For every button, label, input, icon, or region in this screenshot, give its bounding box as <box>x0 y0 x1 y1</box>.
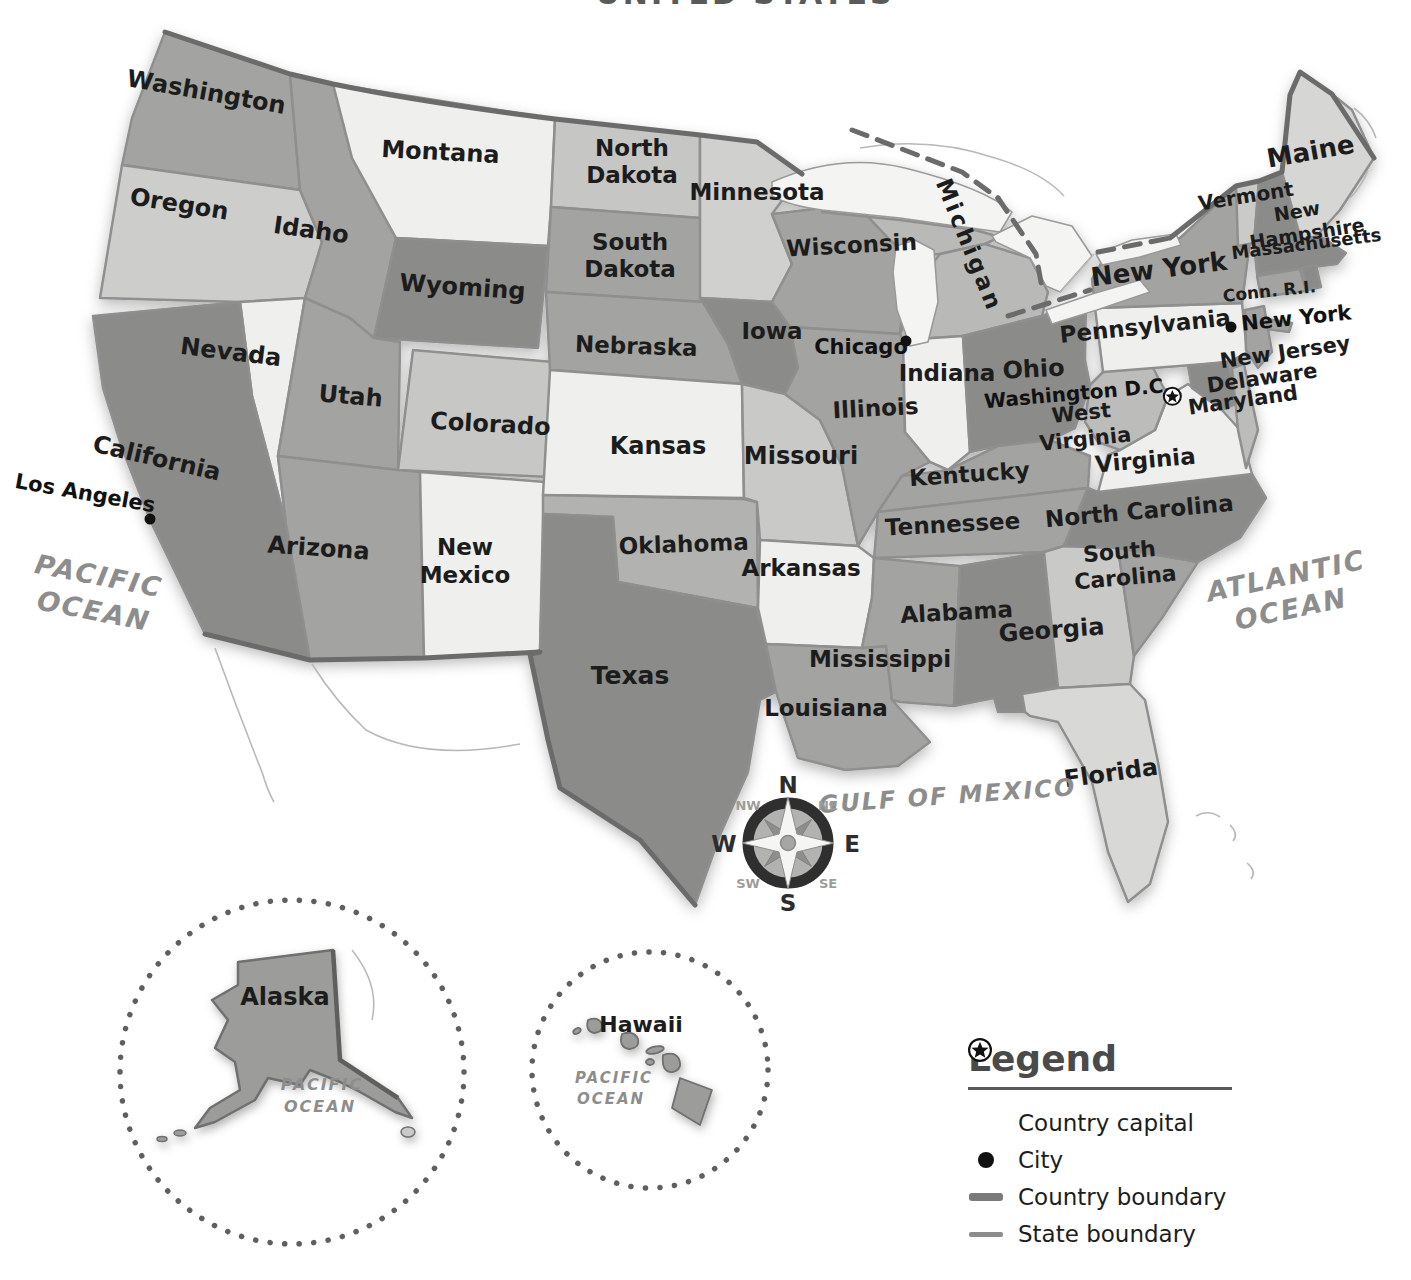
label-minnesota: Minnesota <box>689 179 824 205</box>
label-gulf-of-mexico: GULF OF MEXICO <box>818 773 1077 819</box>
label-south-dakota-1: South <box>592 229 668 255</box>
bahamas-coastline <box>1196 813 1253 879</box>
label-new-york-city: New York <box>1240 300 1353 336</box>
label-new-mexico-2: Mexico <box>420 562 511 588</box>
mexico-coastline-baja <box>215 648 274 802</box>
legend-item-city: City <box>968 1147 1308 1173</box>
label-louisiana: Louisiana <box>764 695 888 721</box>
us-map-page: UNITED STATES <box>0 0 1411 1280</box>
new-york-city-dot <box>1226 322 1237 333</box>
aleutian-island-1 <box>174 1130 186 1136</box>
legend-label: City <box>1018 1147 1063 1173</box>
legend: Legend Country capital City Country boun… <box>968 1038 1308 1247</box>
compass-w: W <box>711 831 736 857</box>
compass-e: E <box>844 831 860 857</box>
hawaii-island-big-island <box>672 1078 712 1125</box>
label-iowa: Iowa <box>741 318 802 344</box>
label-north-dakota-2: Dakota <box>586 162 678 188</box>
label-hawaii-pacific-1: PACIFIC <box>575 1069 653 1087</box>
compass-nw: NW <box>735 798 760 813</box>
label-missouri: Missouri <box>744 442 858 470</box>
label-ohio: Ohio <box>1002 353 1066 384</box>
label-south-dakota-2: Dakota <box>584 256 676 282</box>
label-hawaii: Hawaii <box>599 1012 683 1037</box>
label-arkansas: Arkansas <box>741 555 860 581</box>
country-capital-marker <box>1164 388 1181 405</box>
label-alaska: Alaska <box>240 983 329 1011</box>
label-illinois: Illinois <box>832 393 919 423</box>
hawaii-inset: Hawaii PACIFIC OCEAN <box>532 952 768 1188</box>
legend-title: Legend <box>968 1038 1308 1079</box>
label-new-mexico-1: New <box>437 534 493 560</box>
label-oklahoma: Oklahoma <box>618 529 749 560</box>
compass-ne: NE <box>818 798 838 813</box>
mexico-coastline <box>312 664 520 750</box>
label-chicago: Chicago <box>814 335 908 359</box>
legend-label: Country boundary <box>1018 1184 1226 1210</box>
label-indiana: Indiana <box>899 360 996 386</box>
aleutian-island-2 <box>157 1137 167 1142</box>
label-hawaii-pacific-2: OCEAN <box>577 1090 645 1108</box>
southeast-island <box>401 1127 415 1137</box>
label-texas: Texas <box>591 661 670 690</box>
legend-divider <box>968 1087 1232 1090</box>
legend-item-state-boundary: State boundary <box>968 1221 1308 1247</box>
hawaii-island-lanai <box>646 1059 654 1065</box>
legend-label: State boundary <box>1018 1221 1196 1247</box>
city-dot-icon <box>968 1152 1004 1168</box>
compass-n: N <box>778 772 797 798</box>
label-mississippi: Mississippi <box>809 646 951 672</box>
label-kansas: Kansas <box>610 432 707 460</box>
hawaii-island-niihau <box>572 1027 581 1035</box>
state-boundary-line-icon <box>968 1232 1004 1237</box>
label-north-dakota-1: North <box>595 135 669 161</box>
label-alaska-pacific-2: OCEAN <box>284 1097 356 1116</box>
country-boundary-line-icon <box>968 1193 1004 1201</box>
legend-item-country-boundary: Country boundary <box>968 1184 1308 1210</box>
legend-item-country-capital: Country capital <box>968 1110 1308 1136</box>
legend-label: Country capital <box>1018 1110 1194 1136</box>
compass-s: S <box>780 890 797 916</box>
label-utah: Utah <box>317 379 383 412</box>
alaska-canada-coastline <box>352 950 374 1020</box>
hawaii-island-molokai <box>645 1045 664 1056</box>
hawaii-island-maui <box>663 1054 680 1072</box>
label-nebraska: Nebraska <box>575 331 699 361</box>
compass-sw: SW <box>736 876 760 891</box>
label-alaska-pacific-1: PACIFIC <box>281 1075 363 1094</box>
compass-se: SE <box>819 876 837 891</box>
alaska-inset: Alaska PACIFIC OCEAN <box>120 900 464 1244</box>
